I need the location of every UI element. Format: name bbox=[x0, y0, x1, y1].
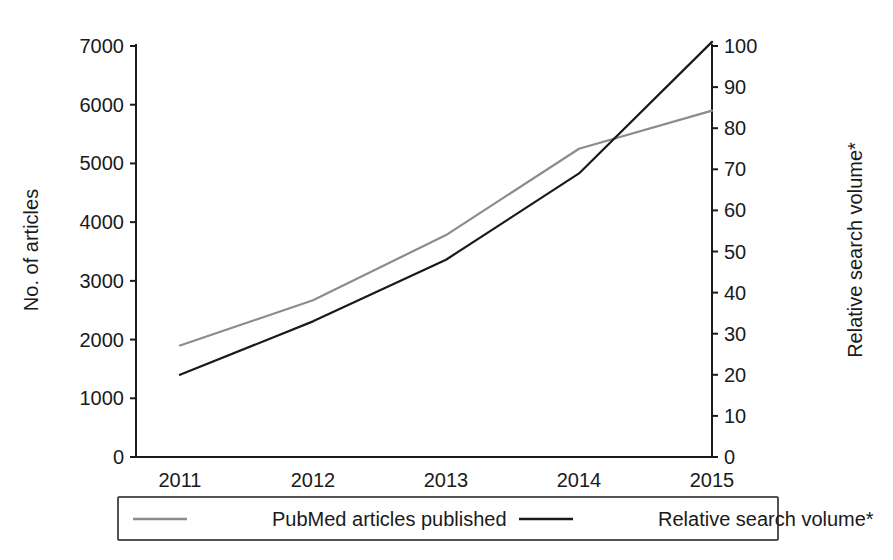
chart-figure: 01000200030004000500060007000 0102030405… bbox=[0, 0, 893, 560]
x-tick-label: 2011 bbox=[158, 469, 201, 491]
series-line-relative-search-volume bbox=[180, 42, 712, 375]
left-tick-label: 6000 bbox=[80, 94, 125, 116]
left-axis-ticks: 01000200030004000500060007000 bbox=[80, 35, 137, 468]
x-tick-label: 2012 bbox=[291, 469, 336, 491]
right-tick-label: 40 bbox=[724, 282, 746, 304]
series-line-pubmed-articles-published bbox=[180, 111, 712, 346]
right-axis-ticks: 0102030405060708090100 bbox=[712, 35, 757, 468]
right-tick-label: 50 bbox=[724, 241, 746, 263]
left-tick-label: 2000 bbox=[80, 329, 125, 351]
right-tick-label: 80 bbox=[724, 117, 746, 139]
right-tick-label: 70 bbox=[724, 158, 746, 180]
right-tick-label: 90 bbox=[724, 76, 746, 98]
right-tick-label: 30 bbox=[724, 323, 746, 345]
right-tick-label: 60 bbox=[724, 199, 746, 221]
x-axis-ticks: 20112012201320142015 bbox=[158, 469, 734, 491]
x-tick-label: 2013 bbox=[424, 469, 469, 491]
series-lines bbox=[180, 42, 712, 375]
legend-label-2: Relative search volume* bbox=[658, 508, 874, 530]
left-tick-label: 4000 bbox=[80, 211, 125, 233]
left-axis-title: No. of articles bbox=[20, 189, 42, 311]
x-tick-label: 2014 bbox=[557, 469, 602, 491]
x-tick-label: 2015 bbox=[690, 469, 735, 491]
left-tick-label: 5000 bbox=[80, 152, 125, 174]
left-tick-label: 0 bbox=[113, 446, 124, 468]
left-tick-label: 3000 bbox=[80, 270, 125, 292]
right-tick-label: 0 bbox=[724, 446, 735, 468]
line-chart: 01000200030004000500060007000 0102030405… bbox=[0, 0, 893, 560]
right-tick-label: 20 bbox=[724, 364, 746, 386]
right-axis-title: Relative search volume* bbox=[844, 142, 866, 358]
left-tick-label: 7000 bbox=[80, 35, 125, 57]
legend-label-1: PubMed articles published bbox=[272, 508, 507, 530]
right-tick-label: 10 bbox=[724, 405, 746, 427]
left-tick-label: 1000 bbox=[80, 387, 125, 409]
right-tick-label: 100 bbox=[724, 35, 757, 57]
